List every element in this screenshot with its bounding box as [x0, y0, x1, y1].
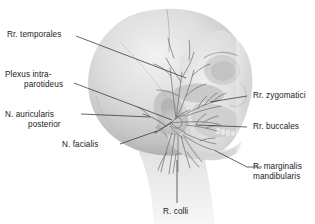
- label-r-colli: R. colli: [163, 207, 188, 217]
- label-plexus-intraparotideus-line2: parotideus: [24, 80, 63, 90]
- label-rr-buccales: Rr. buccales: [253, 122, 299, 132]
- label-n-facialis: N. facialis: [62, 140, 98, 150]
- label-n-auricularis-posterior-line2: posterior: [28, 120, 61, 130]
- label-rr-temporales: Rr. temporales: [7, 30, 61, 40]
- orbit-inner-shape: [211, 61, 235, 81]
- label-plexus-intraparotideus-line1: Plexus intra-: [5, 70, 52, 80]
- label-r-marginalis-mandibularis-line2: mandibularis: [253, 172, 300, 182]
- label-n-auricularis-posterior-line1: N. auricularis: [5, 110, 54, 120]
- label-rr-zygomatici: Rr. zygomatici: [253, 91, 306, 101]
- label-r-marginalis-mandibularis-line1: R. marginalis: [253, 162, 302, 172]
- head-illustration: [88, 9, 276, 224]
